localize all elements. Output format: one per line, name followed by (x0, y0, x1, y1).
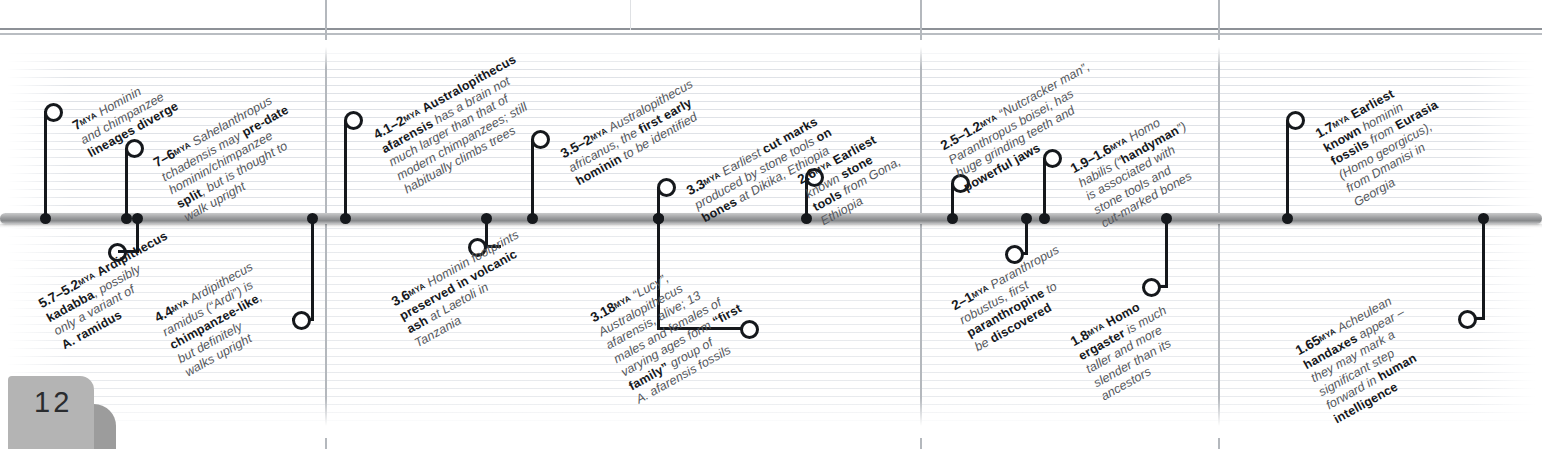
page-fade-top (0, 40, 1542, 68)
header-rule-primary (0, 28, 1542, 30)
timeline-bar (0, 213, 1542, 224)
timeline-page: 7MYA Homininand chimpanzeelineages diver… (0, 0, 1542, 449)
column-divider-2 (630, 0, 631, 30)
page-fade-bottom (0, 398, 1542, 438)
page-number: 12 (34, 386, 72, 419)
page-tab: 12 (8, 376, 94, 449)
page-fade-left (0, 40, 70, 430)
header-rule-secondary (0, 33, 1542, 35)
